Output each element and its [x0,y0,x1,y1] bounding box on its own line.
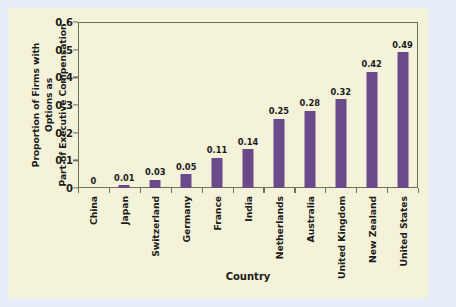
bar-group[interactable]: 0.01 [109,22,140,188]
x-tick-mark [109,188,110,193]
bar-group[interactable]: 0.49 [387,22,418,188]
x-tick-label: Japan [119,196,130,225]
bar-group[interactable]: 0.14 [233,22,264,188]
bar-value-label: 0.03 [145,167,165,177]
x-tick-mark [263,188,264,193]
bars-layer: 00.010.030.050.110.140.250.280.320.420.4… [78,22,418,188]
x-axis-title: Country [78,271,418,282]
x-tick-label: United Kingdom [335,196,346,279]
chart-figure: Proportion of Firms with Options as Part… [9,8,428,298]
bar-value-label: 0.49 [392,40,412,50]
bar-value-label: 0.25 [269,106,289,116]
y-tick-label: 0 [33,183,73,194]
bar-group[interactable]: 0.25 [263,22,294,188]
x-tick-mark [418,188,419,193]
bar-value-label: 0 [91,176,97,186]
bar-group[interactable]: 0.11 [202,22,233,188]
x-tick-label: India [243,196,254,222]
bar-group[interactable]: 0 [78,22,109,188]
x-tick-mark [171,188,172,193]
bar[interactable] [181,174,192,188]
bar[interactable] [335,99,346,188]
bar[interactable] [150,180,161,188]
x-tick-mark [356,188,357,193]
x-tick-mark [387,188,388,193]
bar[interactable] [273,119,284,188]
bar-group[interactable]: 0.03 [140,22,171,188]
bar-value-label: 0.05 [176,162,196,172]
x-tick-label: France [212,196,223,230]
x-tick-label: United States [397,196,408,266]
y-tick-label: 0.6 [33,17,73,28]
x-tick-mark [78,188,79,193]
x-tick-mark [233,188,234,193]
bar-group[interactable]: 0.32 [325,22,356,188]
x-tick-mark [325,188,326,193]
bar[interactable] [242,149,253,188]
bar[interactable] [397,52,408,188]
bar-group[interactable]: 0.28 [294,22,325,188]
x-tick-label: China [88,196,99,225]
x-tick-label: Germany [181,196,192,242]
bar-value-label: 0.42 [361,59,381,69]
x-tick-label: Netherlands [273,196,284,259]
bar-group[interactable]: 0.05 [171,22,202,188]
bar-value-label: 0.01 [114,173,134,183]
bar-group[interactable]: 0.42 [356,22,387,188]
bar[interactable] [212,158,223,188]
x-tick-label: New Zealand [366,196,377,263]
y-tick-label: 0.5 [33,44,73,55]
y-tick-label: 0.2 [33,127,73,138]
x-tick-mark [294,188,295,193]
y-tick-label: 0.4 [33,72,73,83]
bar-value-label: 0.14 [238,137,258,147]
bar-value-label: 0.28 [300,98,320,108]
bar-value-label: 0.11 [207,145,227,155]
y-tick-label: 0.1 [33,155,73,166]
x-tick-label: Switzerland [150,196,161,257]
x-tick-label: Australia [304,196,315,242]
bar[interactable] [304,111,315,188]
y-tick-label: 0.3 [33,100,73,111]
x-tick-mark [202,188,203,193]
bar-value-label: 0.32 [330,87,350,97]
x-tick-mark [140,188,141,193]
bar[interactable] [366,72,377,188]
bar[interactable] [119,185,130,188]
